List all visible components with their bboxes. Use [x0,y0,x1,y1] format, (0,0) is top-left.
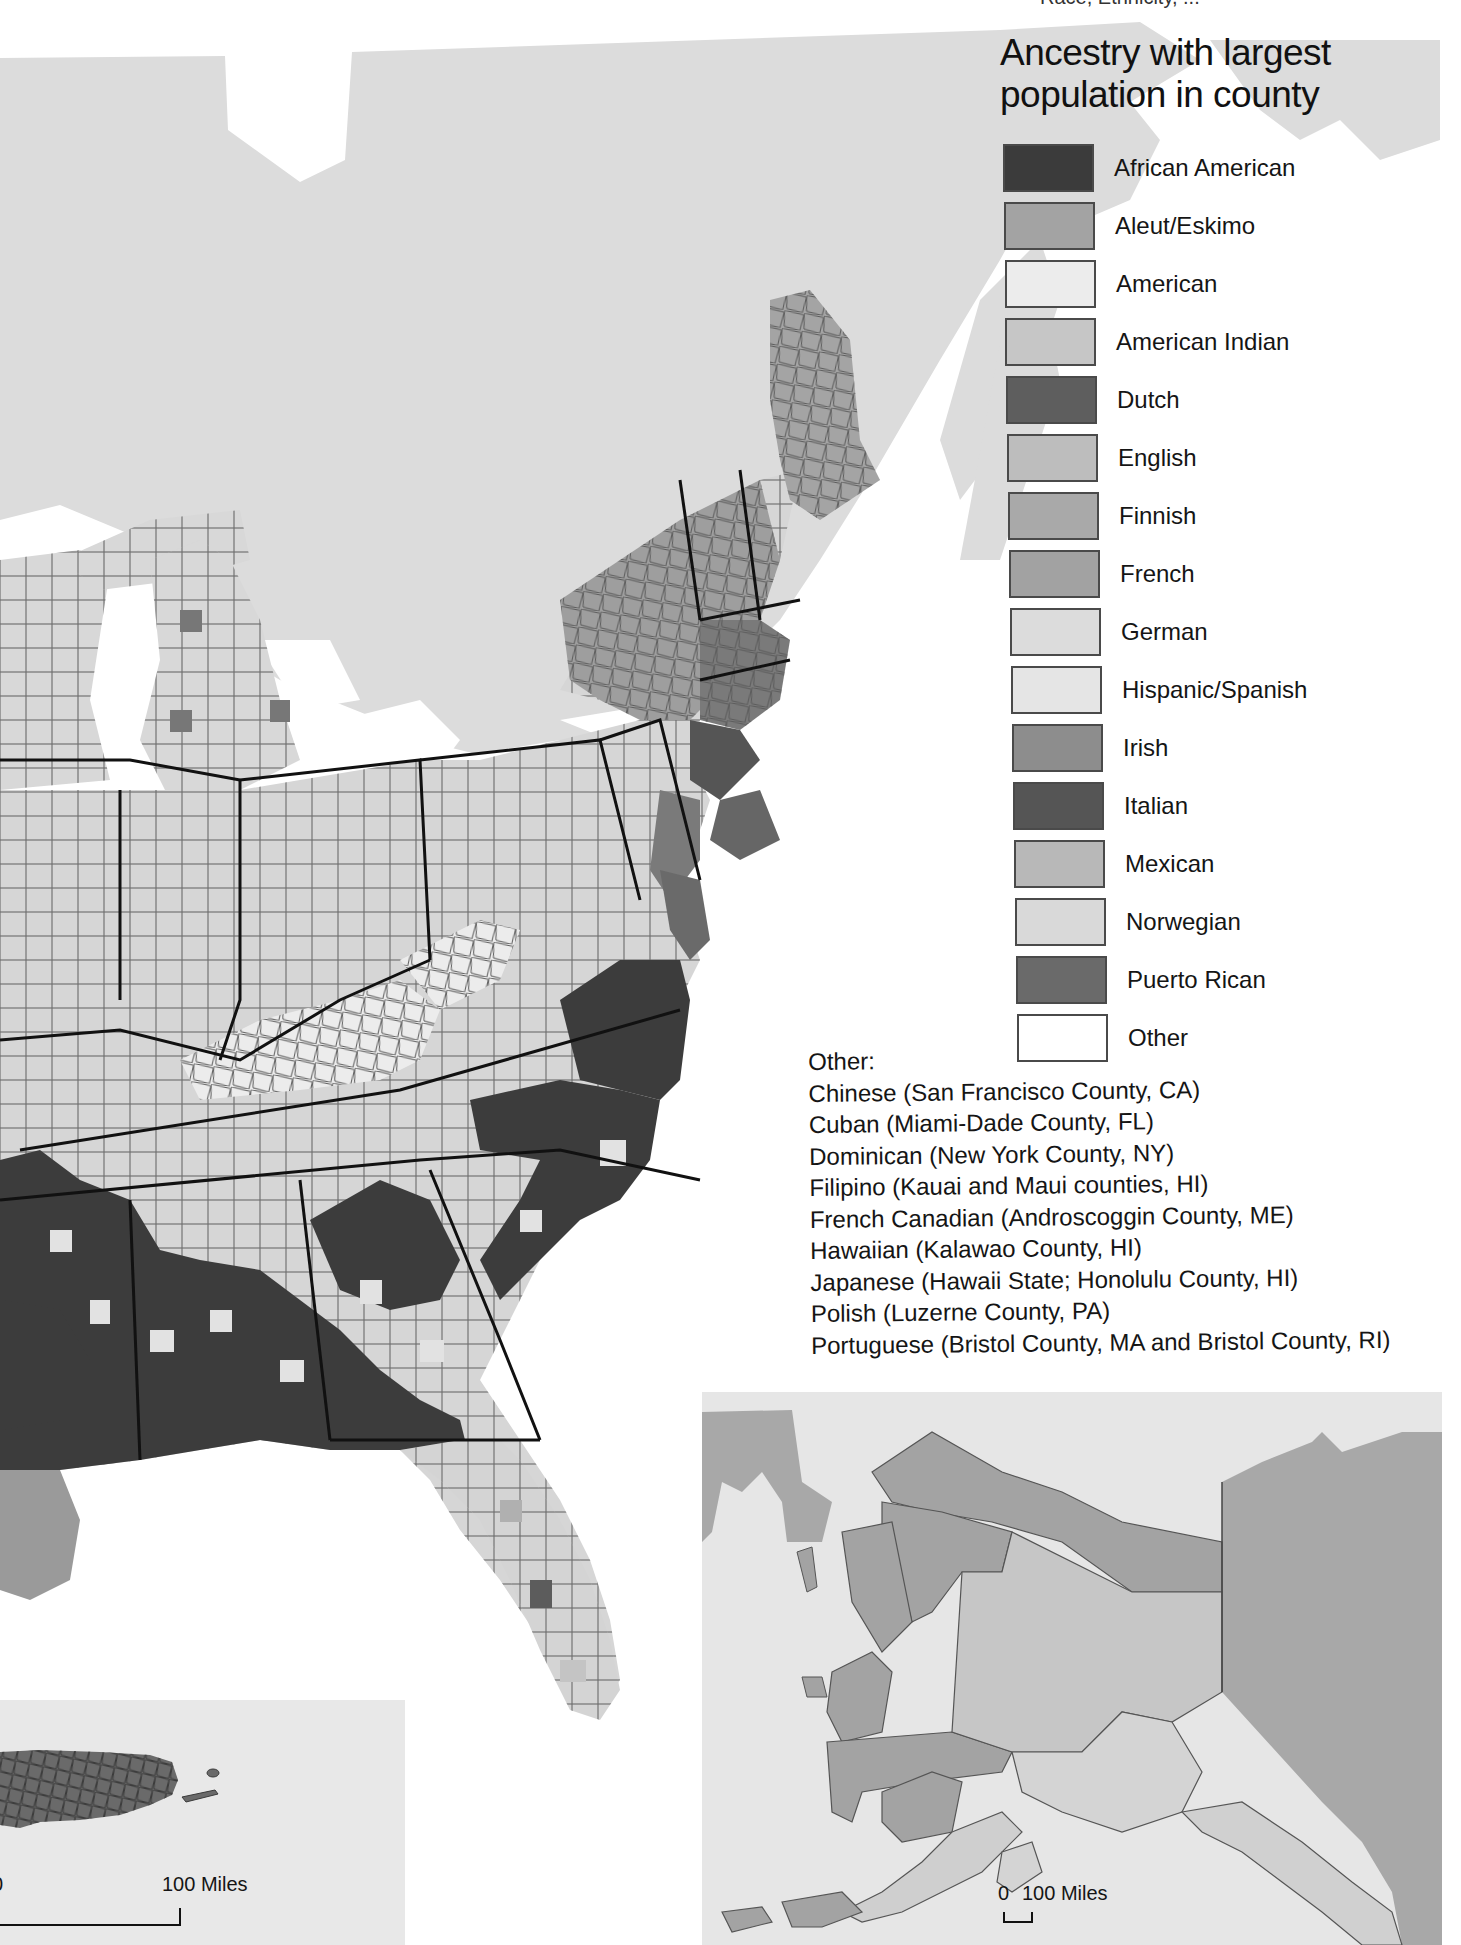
legend-swatch [1009,550,1100,598]
legend-item-italian: Italian [1013,781,1188,831]
legend-swatch [1013,782,1104,830]
louisiana-french-counties [0,1470,80,1600]
legend-label: Italian [1124,792,1188,820]
legend-item-german: German [1010,607,1208,657]
legend-swatch [1014,840,1105,888]
legend-label: American [1116,270,1217,298]
legend-item-hispanic-spanish: Hispanic/Spanish [1011,665,1307,715]
legend-swatch [1011,666,1102,714]
legend-title-line2: population in county [1000,74,1331,116]
alaska-scale-label: 100 Miles [1022,1882,1108,1905]
legend-label: Mexican [1125,850,1214,878]
legend-item-american-indian: American Indian [1005,317,1289,367]
legend-swatch [1004,202,1095,250]
legend-item-american: American [1005,259,1217,309]
legend-swatch [1008,492,1099,540]
legend-label: Finnish [1119,502,1196,530]
legend-label: English [1118,444,1197,472]
alaska-scale-zero: 0 [998,1882,1009,1905]
page-header-clipped-text: Race, Ethnicity, ... [1040,0,1200,9]
legend-item-puerto-rican: Puerto Rican [1016,955,1266,1005]
legend-swatch [1003,144,1094,192]
legend-swatch [1015,898,1106,946]
other-line: Portuguese (Bristol County, MA and Brist… [811,1323,1391,1361]
puerto-rico-scale-label: 100 Miles [162,1873,248,1896]
legend-item-irish: Irish [1012,723,1168,773]
legend-label: American Indian [1116,328,1289,356]
legend-swatch [1005,318,1096,366]
legend-label: African American [1114,154,1295,182]
legend-item-english: English [1007,433,1197,483]
legend-swatch [1010,608,1101,656]
other-ancestries-note: Other: Chinese (San Francisco County, CA… [808,1040,1391,1361]
legend-item-aleut-eskimo: Aleut/Eskimo [1004,201,1255,251]
legend-item-dutch: Dutch [1006,375,1180,425]
puerto-rico-inset-background [0,1700,405,1945]
legend-swatch [1016,956,1107,1004]
legend-item-mexican: Mexican [1014,839,1214,889]
legend-title: Ancestry with largest population in coun… [1000,32,1331,116]
legend-label: Hispanic/Spanish [1122,676,1307,704]
legend-swatch [1012,724,1103,772]
legend-label: Dutch [1117,386,1180,414]
legend-item-african-american: African American [1003,143,1295,193]
legend-label: Puerto Rican [1127,966,1266,994]
puerto-rico-inset-map [0,1700,405,1945]
legend-item-norwegian: Norwegian [1015,897,1241,947]
legend-label: French [1120,560,1195,588]
legend-swatch [1006,376,1097,424]
legend-item-french: French [1009,549,1195,599]
alaska-inset-map [702,1392,1442,1945]
legend-label: Aleut/Eskimo [1115,212,1255,240]
legend-title-line1: Ancestry with largest [1000,32,1331,74]
legend-item-finnish: Finnish [1008,491,1196,541]
legend-swatch [1005,260,1096,308]
puerto-rico-scale-zero: 0 [0,1873,3,1896]
legend-label: Irish [1123,734,1168,762]
legend-label: Norwegian [1126,908,1241,936]
legend-label: German [1121,618,1208,646]
legend-swatch [1007,434,1098,482]
